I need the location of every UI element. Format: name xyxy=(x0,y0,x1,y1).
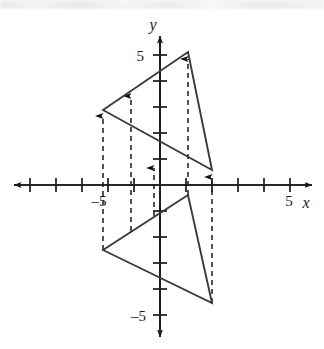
y-tick-label-neg5: –5 xyxy=(130,308,146,324)
y-tick-label-5: 5 xyxy=(137,48,145,64)
coordinate-plane-figure: –5 5 5 –5 x y xyxy=(0,0,324,349)
x-axis-label: x xyxy=(301,194,309,211)
image-triangle xyxy=(103,52,212,170)
y-axis-label: y xyxy=(147,16,157,34)
translation-arrows xyxy=(103,59,212,303)
x-tick-label-5: 5 xyxy=(285,193,293,209)
x-tick-label-neg5: –5 xyxy=(91,193,107,209)
cropped-text-remnant xyxy=(0,0,324,9)
translation-diagram-svg: –5 5 5 –5 x y xyxy=(0,0,324,349)
